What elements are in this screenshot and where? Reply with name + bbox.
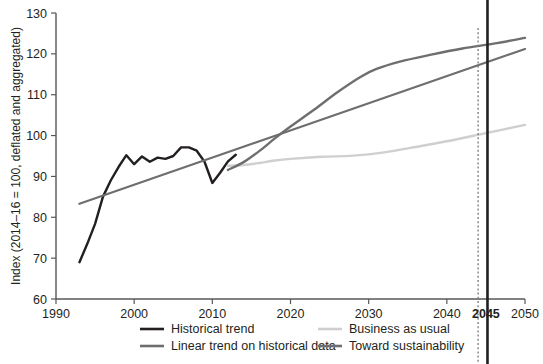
legend-label: Toward sustainability <box>349 339 465 353</box>
x-axis-tick-label: 2050 <box>511 307 539 321</box>
x-axis-tick-label: 2030 <box>355 307 383 321</box>
legend-label: Historical trend <box>171 322 254 336</box>
target-year-label: 2045 <box>472 307 500 321</box>
y-axis-tick-label: 70 <box>33 252 47 266</box>
x-axis-tick-label: 1990 <box>42 307 70 321</box>
chart-container: 6070809010011012013019902000201020202030… <box>0 0 543 364</box>
y-axis-tick-label: 90 <box>33 170 47 184</box>
x-axis-tick-label: 2010 <box>198 307 226 321</box>
y-axis-tick-label: 120 <box>26 47 47 61</box>
series-line-toward-sustainability <box>228 38 525 170</box>
series-line-business-as-usual <box>228 125 525 166</box>
y-axis-title: Index (2014–16 = 100, deflated and aggre… <box>9 27 23 285</box>
y-axis-tick-label: 80 <box>33 211 47 225</box>
x-axis-tick-label: 2000 <box>120 307 148 321</box>
y-axis-tick-label: 60 <box>33 293 47 307</box>
y-axis-tick-label: 110 <box>27 88 47 102</box>
legend-label: Linear trend on historical data <box>171 339 336 353</box>
x-axis-tick-label: 2020 <box>277 307 305 321</box>
line-chart: 6070809010011012013019902000201020202030… <box>0 0 543 364</box>
series-line-linear-trend-on-historical-data <box>79 49 525 204</box>
y-axis-tick-label: 100 <box>26 129 47 143</box>
series-line-historical-trend <box>79 147 235 262</box>
y-axis-tick-label: 130 <box>26 7 47 21</box>
x-axis-tick-label: 2040 <box>433 307 461 321</box>
legend-label: Business as usual <box>349 322 450 336</box>
